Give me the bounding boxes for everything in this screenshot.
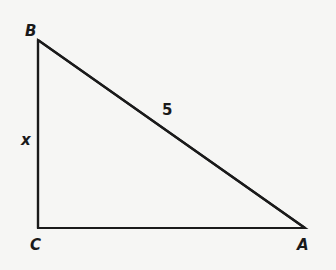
vertex-label-a: A [297,238,309,253]
triangle-drawing [0,0,336,270]
vertex-label-c: C [30,238,41,253]
side-ab-hypotenuse [38,40,305,228]
vertex-label-b: B [25,24,36,39]
triangle-figure: B C A x 5 [0,0,336,270]
side-label-hypotenuse: 5 [162,103,172,118]
side-label-x: x [21,133,31,148]
